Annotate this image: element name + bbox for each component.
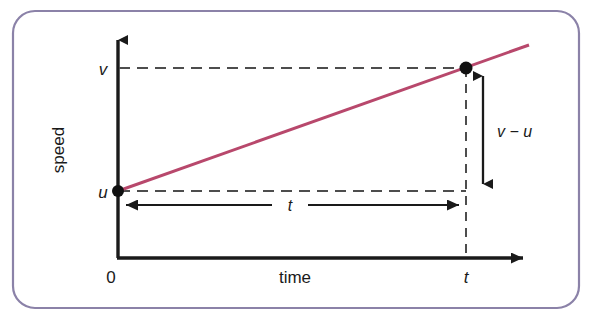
- rise-annotation-label: v − u: [497, 123, 532, 140]
- data-point-v: [460, 62, 473, 75]
- x-tick-label-zero: 0: [106, 268, 115, 287]
- run-annotation-label: t: [288, 197, 293, 214]
- figure-container: speed time v u 0 t v − u t: [0, 0, 592, 320]
- figure-border: [13, 11, 579, 308]
- speed-time-graph: speed time v u 0 t v − u t: [0, 0, 592, 320]
- y-axis-title: speed: [49, 127, 68, 173]
- y-tick-label-u: u: [98, 183, 108, 202]
- x-axis-title: time: [279, 268, 311, 287]
- data-point-u: [112, 185, 124, 197]
